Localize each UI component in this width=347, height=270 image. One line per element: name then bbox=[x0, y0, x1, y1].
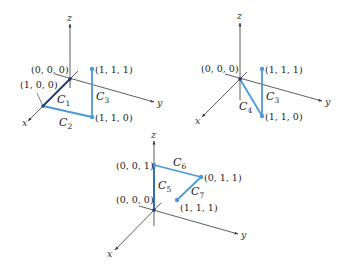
label-c2: C2 bbox=[59, 116, 72, 131]
y-axis-label: y bbox=[324, 96, 331, 107]
panel-1: z y x (0, 0, 0) (1, 0, 0) (1, 1, 0) (1, … bbox=[20, 12, 163, 131]
label-origin: (0, 0, 0) bbox=[31, 64, 69, 75]
point-111 bbox=[90, 67, 94, 71]
label-011: (0, 1, 1) bbox=[204, 172, 242, 183]
label-c3: C3 bbox=[96, 90, 109, 105]
point-111 bbox=[260, 67, 264, 71]
z-axis-label: z bbox=[236, 10, 243, 21]
label-c3: C3 bbox=[266, 90, 279, 105]
z-axis-label: z bbox=[150, 129, 157, 140]
point-111 bbox=[175, 198, 179, 202]
label-c6: C6 bbox=[173, 156, 186, 171]
label-111: (1, 1, 1) bbox=[95, 64, 133, 75]
panel-3: z y x (0, 0, 1) (0, 1, 1) (0, 0, 0) (1, … bbox=[107, 129, 247, 259]
y-axis-label: y bbox=[240, 229, 247, 240]
y-axis-label: y bbox=[156, 97, 163, 108]
x-axis-label: x bbox=[22, 117, 28, 128]
point-011 bbox=[199, 175, 203, 179]
label-c5: C5 bbox=[158, 179, 171, 194]
point-100 bbox=[41, 104, 45, 108]
x-axis-label: x bbox=[107, 248, 113, 259]
label-110: (1, 1, 0) bbox=[265, 111, 303, 122]
x-axis-label: x bbox=[195, 115, 201, 126]
diagram-canvas: z y x (0, 0, 0) (1, 0, 0) (1, 1, 0) (1, … bbox=[0, 0, 347, 270]
label-111: (1, 1, 1) bbox=[180, 202, 218, 213]
point-origin bbox=[238, 77, 242, 81]
leader-line bbox=[37, 93, 42, 104]
label-001: (0, 0, 1) bbox=[116, 160, 154, 171]
panel-2: z y x (0, 0, 0) (1, 1, 1) (1, 1, 0) C4 C… bbox=[195, 10, 331, 126]
point-origin bbox=[152, 208, 156, 212]
label-origin: (0, 0, 0) bbox=[116, 194, 154, 205]
label-origin: (0, 0, 0) bbox=[201, 63, 239, 74]
label-111: (1, 1, 1) bbox=[265, 64, 303, 75]
label-c7: C7 bbox=[191, 185, 204, 200]
label-100: (1, 0, 0) bbox=[20, 79, 58, 90]
point-110 bbox=[90, 115, 94, 119]
point-origin bbox=[68, 77, 72, 81]
label-c4: C4 bbox=[239, 100, 252, 115]
z-axis-label: z bbox=[66, 12, 73, 23]
label-c1: C1 bbox=[57, 93, 70, 108]
point-110 bbox=[260, 114, 264, 118]
label-110: (1, 1, 0) bbox=[95, 112, 133, 123]
